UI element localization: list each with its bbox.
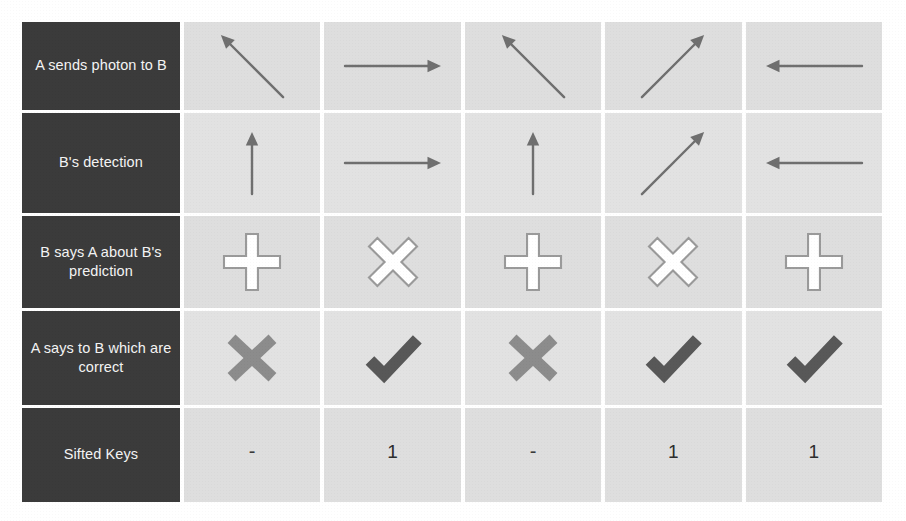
row-label-verdict: A says to B which are correct <box>22 311 180 405</box>
cell-basis-4 <box>605 216 741 308</box>
cell-send-5 <box>746 22 882 110</box>
cell-send-4 <box>605 22 741 110</box>
cell-basis-1 <box>184 216 320 308</box>
arrow-right-icon <box>335 122 451 204</box>
row-label-send: A sends photon to B <box>22 22 180 110</box>
cell-sifted-3: - <box>465 408 601 502</box>
cell-sifted-1: - <box>184 408 320 502</box>
sifted-key-value: 1 <box>387 442 398 461</box>
arrow-left-icon <box>756 122 872 204</box>
check-mark-icon <box>782 326 846 390</box>
cell-detect-3 <box>465 113 601 213</box>
sifted-key-value: 1 <box>668 442 679 461</box>
cell-sifted-5: 1 <box>746 408 882 502</box>
cell-detect-5 <box>746 113 882 213</box>
bb84-sifting-table: A sends photon to BB's detectionB says A… <box>22 22 882 498</box>
sifted-key-value: - <box>249 441 256 461</box>
check-mark-icon <box>361 326 425 390</box>
cell-send-2 <box>324 22 460 110</box>
arrow-up-right-icon <box>615 25 731 107</box>
cell-verdict-5 <box>746 311 882 405</box>
cell-send-3 <box>465 22 601 110</box>
cell-verdict-4 <box>605 311 741 405</box>
cell-detect-4 <box>605 113 741 213</box>
sifted-key-value: - <box>530 441 537 461</box>
row-label-basis: B says A about B's prediction <box>22 216 180 308</box>
cell-basis-5 <box>746 216 882 308</box>
cell-send-1 <box>184 22 320 110</box>
cross-basis-icon <box>638 227 708 297</box>
arrow-up-icon <box>194 122 310 204</box>
cell-sifted-4: 1 <box>605 408 741 502</box>
arrow-up-left-icon <box>475 25 591 107</box>
cell-verdict-1 <box>184 311 320 405</box>
row-label-sifted: Sifted Keys <box>22 408 180 502</box>
cell-detect-1 <box>184 113 320 213</box>
cell-detect-2 <box>324 113 460 213</box>
cell-basis-2 <box>324 216 460 308</box>
cell-verdict-2 <box>324 311 460 405</box>
arrow-up-right-icon <box>615 122 731 204</box>
arrow-left-icon <box>756 25 872 107</box>
arrow-right-icon <box>335 25 451 107</box>
x-mark-icon <box>220 326 284 390</box>
cell-basis-3 <box>465 216 601 308</box>
sifted-key-value: 1 <box>809 442 820 461</box>
plus-basis-icon <box>498 227 568 297</box>
plus-basis-icon <box>779 227 849 297</box>
cell-sifted-2: 1 <box>324 408 460 502</box>
cell-verdict-3 <box>465 311 601 405</box>
row-label-detect: B's detection <box>22 113 180 213</box>
x-mark-icon <box>501 326 565 390</box>
check-mark-icon <box>641 326 705 390</box>
cross-basis-icon <box>358 227 428 297</box>
arrow-up-icon <box>475 122 591 204</box>
arrow-up-left-icon <box>194 25 310 107</box>
plus-basis-icon <box>217 227 287 297</box>
